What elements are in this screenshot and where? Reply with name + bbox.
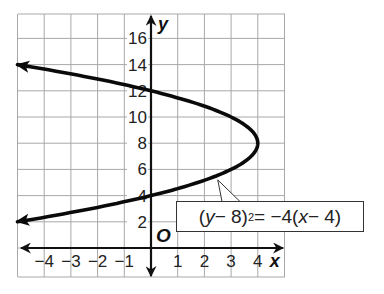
x-axis-label: x	[269, 251, 281, 271]
x-tick-label: −3	[61, 252, 80, 271]
tick-labels: −4−3−2−11234246810121416	[35, 29, 263, 271]
x-tick-label: −2	[88, 252, 107, 271]
axes	[21, 16, 283, 276]
y-tick-label: 6	[138, 160, 147, 179]
x-tick-label: −4	[35, 252, 54, 271]
x-tick-label: 4	[253, 252, 262, 271]
y-tick-label: 2	[138, 213, 147, 232]
y-tick-label: 10	[128, 108, 147, 127]
parabola-chart: −4−3−2−11234246810121416 y x O	[0, 0, 384, 294]
x-tick-label: 3	[226, 252, 235, 271]
callout-pointer	[218, 180, 240, 202]
equation-callout: (y − 8)2 = −4(x − 4)	[176, 201, 364, 232]
eq-end: − 4)	[308, 206, 341, 228]
x-tick-label: −1	[115, 252, 134, 271]
origin-label: O	[156, 225, 171, 246]
eq-minus8: − 8)	[215, 206, 248, 228]
y-tick-label: 8	[138, 134, 147, 153]
x-tick-label: 1	[173, 252, 182, 271]
y-tick-label: 16	[128, 29, 147, 48]
eq-var-x: x	[298, 206, 308, 228]
y-axis-label: y	[157, 14, 169, 34]
eq-var-y: y	[205, 206, 215, 228]
y-tick-label: 14	[128, 56, 147, 75]
eq-mid: = −4(	[254, 206, 298, 228]
x-tick-label: 2	[200, 252, 209, 271]
